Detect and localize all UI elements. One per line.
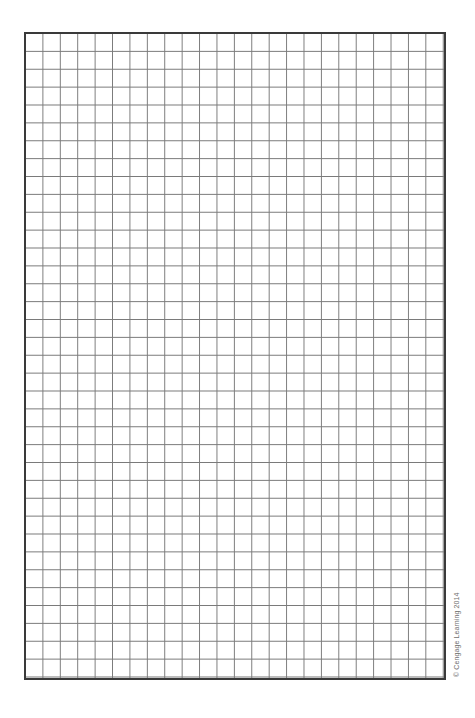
graph-paper-grid (24, 32, 446, 680)
copyright-notice: © Cengage Learning 2014 (453, 592, 460, 677)
